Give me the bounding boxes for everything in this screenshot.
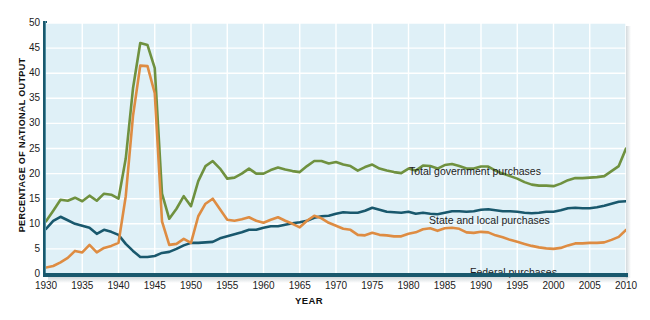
x-tick-1930: 1930	[35, 280, 57, 291]
x-tick-1955: 1955	[216, 280, 238, 291]
x-axis-tick-labels: 1930193519401945195019551960196519701975…	[0, 280, 650, 294]
x-tick-1960: 1960	[252, 280, 274, 291]
chart-figure: 50454035302520151050 Total government pu…	[0, 0, 650, 320]
x-axis-title: YEAR	[0, 295, 650, 306]
x-tick-1970: 1970	[325, 280, 347, 291]
plot-drop-shadow-right	[626, 26, 631, 278]
x-tick-1965: 1965	[289, 280, 311, 291]
x-tick-2005: 2005	[579, 280, 601, 291]
y-axis-title: PERCENTAGE OF NATIONAL OUTPUT	[17, 35, 27, 255]
x-tick-1995: 1995	[506, 280, 528, 291]
y-tick-0: 0	[14, 269, 40, 279]
series-label-state-and-local-purchases: State and local purchases	[429, 214, 550, 226]
x-tick-2000: 2000	[542, 280, 564, 291]
x-tick-1940: 1940	[107, 280, 129, 291]
x-axis-line	[43, 273, 628, 277]
y-tick-50: 50	[14, 18, 40, 28]
x-tick-2010: 2010	[615, 280, 637, 291]
x-tick-1980: 1980	[397, 280, 419, 291]
x-tick-1975: 1975	[361, 280, 383, 291]
plot-area: Total government purchases State and loc…	[46, 23, 626, 274]
x-tick-1945: 1945	[144, 280, 166, 291]
x-tick-1950: 1950	[180, 280, 202, 291]
plot-svg	[46, 23, 626, 274]
gridlines	[46, 23, 626, 274]
series-label-total-government-purchases: Total government purchases	[409, 165, 541, 177]
x-axis-title-text: YEAR	[295, 295, 323, 306]
x-tick-1990: 1990	[470, 280, 492, 291]
x-tick-1935: 1935	[71, 280, 93, 291]
x-tick-1985: 1985	[434, 280, 456, 291]
